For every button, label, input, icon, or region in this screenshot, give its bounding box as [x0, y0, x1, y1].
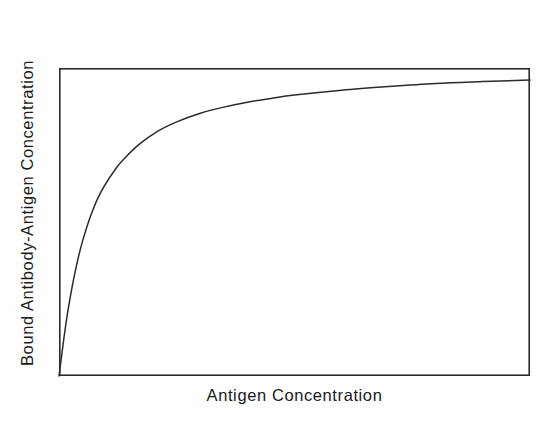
plot-frame — [60, 69, 529, 375]
plot-svg — [59, 68, 530, 376]
chart-figure: Bound Antibody-Antigen Concentration Ant… — [0, 0, 546, 425]
x-axis-title: Antigen Concentration — [59, 386, 530, 405]
plot-area — [59, 68, 530, 376]
y-axis-title: Bound Antibody-Antigen Concentration — [18, 60, 37, 366]
y-axis-title-container: Bound Antibody-Antigen Concentration — [0, 0, 54, 425]
